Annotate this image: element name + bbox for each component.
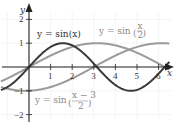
y-tick-label: 2 <box>19 14 24 24</box>
y-tick-label: 1 <box>19 38 24 48</box>
y-tick-label: −1 <box>14 86 24 96</box>
sine-graph: 12345621−1−2 y x y = sin(x) y = sin ( x … <box>0 0 176 125</box>
x-tick-label: 2 <box>70 71 75 81</box>
x-tick-label: 5 <box>135 71 140 81</box>
label-sin-x: y = sin(x) <box>36 29 81 39</box>
x-axis-label: x <box>167 68 172 78</box>
svg-text:x − 3: x − 3 <box>72 90 96 100</box>
svg-text:(: ( <box>68 98 72 108</box>
svg-text:y = sin: y = sin <box>98 26 131 36</box>
x-tick-label: 3 <box>91 71 96 81</box>
x-tick-label: 6 <box>156 71 161 81</box>
svg-text:): ) <box>88 98 92 108</box>
label-sin-shifted: y = sin ( x − 3 2 ) <box>34 90 96 111</box>
curve-sin-x-2 <box>1 43 169 81</box>
x-tick-label: 1 <box>48 71 53 81</box>
label-sin-half-x: y = sin ( x 2 ) <box>98 21 146 40</box>
y-tick-label: −2 <box>14 110 24 120</box>
svg-text:y = sin: y = sin <box>34 95 67 105</box>
svg-text:): ) <box>143 28 147 38</box>
y-axis-arrow-icon <box>26 3 33 12</box>
svg-text:2: 2 <box>78 101 84 111</box>
svg-text:(: ( <box>133 28 137 38</box>
y-axis-label: y <box>19 5 26 15</box>
x-tick-label: 4 <box>113 71 118 81</box>
